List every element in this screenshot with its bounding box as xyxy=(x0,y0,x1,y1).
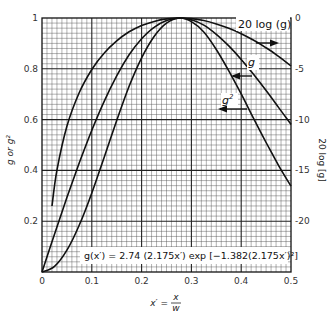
y-axis-left-label: g or g² xyxy=(5,135,15,165)
y-axis-left-ticks: 0.20.40.60.81 xyxy=(24,13,39,226)
y-tick-label: 0.4 xyxy=(24,165,39,175)
x-tick-label: 0.4 xyxy=(234,276,249,286)
x-tick-label: 0.1 xyxy=(85,276,99,286)
x-tick-label: 0.5 xyxy=(284,276,298,286)
x-axis-label-lhs: x′ = xyxy=(149,298,168,308)
y-right-tick-label: -20 xyxy=(295,216,310,226)
y-axis-right-ticks: 0-5-10-15-20 xyxy=(295,13,310,226)
x-axis-ticks: 00.10.20.30.40.5 xyxy=(39,276,298,286)
y-right-tick-label: 0 xyxy=(295,13,301,23)
x-tick-label: 0.3 xyxy=(184,276,198,286)
y-right-tick-label: -10 xyxy=(295,115,310,125)
y-tick-label: 0.6 xyxy=(24,115,39,125)
chart: 00.10.20.30.40.5 0.20.40.60.81 0-5-10-15… xyxy=(0,0,336,320)
arrow-right-icon xyxy=(256,40,279,47)
x-axis-label-numerator: x xyxy=(172,292,179,302)
y-tick-label: 0.2 xyxy=(24,216,38,226)
series-label-20log: 20 log (g) xyxy=(238,18,291,31)
y-right-tick-label: -5 xyxy=(295,64,304,74)
x-axis-label-denominator: w xyxy=(172,303,180,313)
x-tick-label: 0.2 xyxy=(134,276,148,286)
x-axis-label: x′ = x w xyxy=(149,292,181,313)
y-tick-label: 0.8 xyxy=(24,64,39,74)
formula-text: g(x′) = 2.74 (2.175x′) exp [−1.382(2.175… xyxy=(84,250,298,261)
y-right-tick-label: -15 xyxy=(295,165,310,175)
x-tick-label: 0 xyxy=(39,276,45,286)
y-tick-label: 1 xyxy=(32,13,38,23)
series-label-g: g xyxy=(248,56,255,69)
y-axis-right-label: 20 log [g] xyxy=(317,138,327,182)
